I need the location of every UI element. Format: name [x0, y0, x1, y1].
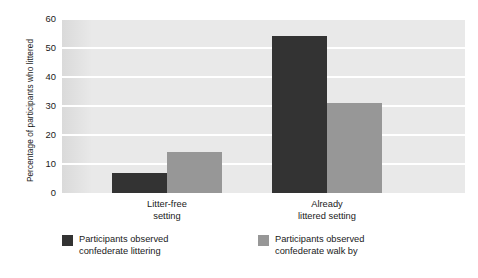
- bar-group-1-series-2: [167, 152, 222, 193]
- bar-chart-figure: Percentage of participants who littered …: [0, 0, 478, 278]
- gridline-10: [62, 163, 465, 165]
- gridline-60: [62, 18, 465, 20]
- legend-label-confederate-littering: Participants observed confederate litter…: [79, 234, 168, 257]
- legend-swatch-icon-dark: [62, 235, 73, 246]
- y-tick-label-40: 40: [0, 72, 56, 81]
- y-axis-tick-labels: 0102030405060: [0, 19, 56, 193]
- plot-area: [62, 19, 465, 193]
- legend-item-confederate-littering: Participants observed confederate litter…: [62, 234, 168, 257]
- y-tick-label-10: 10: [0, 159, 56, 168]
- bar-group-2-series-2: [327, 103, 382, 193]
- legend-swatch-icon-light: [258, 235, 269, 246]
- x-axis-category-label-1: Litter-free setting: [87, 199, 247, 222]
- chart-legend: Participants observed confederate litter…: [62, 234, 462, 268]
- legend-label-confederate-walk-by: Participants observed confederate walk b…: [275, 234, 364, 257]
- bar-group-2-series-1: [272, 36, 327, 193]
- y-tick-label-0: 0: [0, 188, 56, 197]
- y-tick-label-30: 30: [0, 101, 56, 110]
- bar-group-1-series-1: [112, 173, 167, 193]
- legend-item-confederate-walk-by: Participants observed confederate walk b…: [258, 234, 364, 257]
- gridline-40: [62, 76, 465, 78]
- y-tick-label-50: 50: [0, 43, 56, 52]
- y-tick-label-20: 20: [0, 130, 56, 139]
- gridline-20: [62, 134, 465, 136]
- x-axis-category-label-2: Already littered setting: [247, 199, 407, 222]
- gridline-30: [62, 105, 465, 107]
- gridline-50: [62, 47, 465, 49]
- y-tick-label-60: 60: [0, 14, 56, 23]
